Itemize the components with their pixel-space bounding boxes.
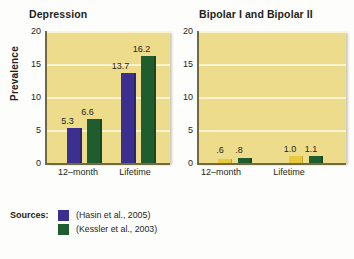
bar-value-lifetime-hasin: 13.7 [108,62,133,71]
gridline-right-10 [199,97,346,99]
legend-row-kessler: (Kessler et al., 2003) [10,222,157,236]
gridline-right-20 [199,31,346,33]
chart-title-bipolar: Bipolar I and Bipolar II [199,8,313,20]
y-tick-right-10: 10 [175,93,193,102]
bar-depression-12month-kessler [87,119,102,163]
bar-bipolar-12month-bp2 [238,158,252,163]
plot-area-bipolar [199,31,346,163]
chart-title-depression: Depression [29,8,87,20]
x-tick-left-12month: 12–month [50,167,106,177]
bar-value-lifetime-bp1: 1.0 [279,145,301,154]
x-tick-right-lifetime: Lifetime [259,167,319,177]
y-tick-left-0: 0 [19,159,41,168]
bar-bipolar-12month-bp1 [218,159,232,163]
bar-bipolar-lifetime-bp2 [309,156,323,163]
y-tick-right-15: 15 [175,60,193,69]
legend-row-hasin: Sources: (Hasin et al., 2005) [10,208,157,222]
y-tick-left-10: 10 [19,93,41,102]
chart-panel-bipolar: Bipolar I and Bipolar II 0 5 10 15 20 .6… [177,0,354,259]
bar-depression-lifetime-hasin [121,73,136,163]
bar-depression-12month-hasin [67,128,82,163]
legend-swatch-kessler-icon [58,224,69,235]
legend-label-hasin: (Hasin et al., 2005) [76,210,150,220]
x-tick-left-lifetime: Lifetime [110,167,160,177]
x-tick-right-12month: 12–month [187,167,255,177]
y-tick-left-5: 5 [19,126,41,135]
gridline-right-15 [199,64,346,66]
bar-value-12month-kessler: 6.6 [77,108,98,117]
bar-depression-lifetime-kessler [141,56,156,163]
bar-value-12month-hasin: 5.3 [57,117,78,126]
figure-root: Depression Prevalence 0 5 10 15 20 5.3 6… [0,0,354,259]
bar-value-lifetime-kessler: 16.2 [129,45,154,54]
legend-depression: Sources: (Hasin et al., 2005) (Kessler e… [10,208,157,236]
legend-sources-label: Sources: [10,210,58,220]
legend-label-kessler: (Kessler et al., 2003) [76,224,157,234]
chart-panel-depression: Depression Prevalence 0 5 10 15 20 5.3 6… [0,0,177,259]
gridline-right-5 [199,130,346,132]
y-tick-left-20: 20 [19,27,41,36]
bar-value-12month-bp2: .8 [230,146,248,155]
x-axis-line-right [197,163,346,165]
legend-swatch-hasin-icon [58,210,69,221]
y-axis-label-prevalence: Prevalence [9,29,20,119]
gridline-left-20 [47,31,170,33]
y-tick-left-15: 15 [19,60,41,69]
y-tick-right-5: 5 [175,126,193,135]
x-axis-line-left [45,163,170,165]
bar-value-lifetime-bp2: 1.1 [300,145,322,154]
bar-value-12month-bp1: .6 [211,146,229,155]
y-tick-right-20: 20 [175,27,193,36]
bar-bipolar-lifetime-bp1 [289,156,303,163]
